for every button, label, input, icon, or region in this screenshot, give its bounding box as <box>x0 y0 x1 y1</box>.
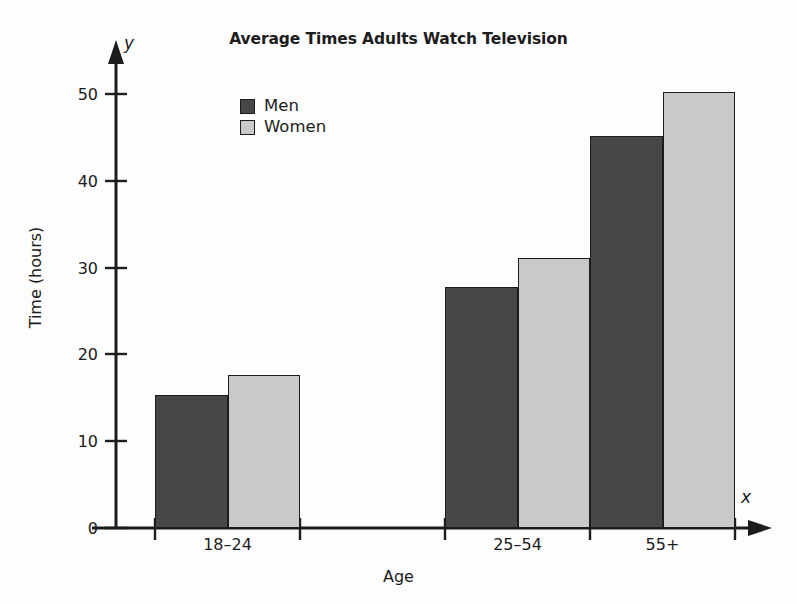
x-tick-label-18-24: 18–24 <box>155 535 300 554</box>
y-tick-label-20: 20 <box>52 345 98 364</box>
y-tick-label-10: 10 <box>52 432 98 451</box>
x-tick-label-25-54: 25–54 <box>445 535 590 554</box>
y-tick-label-0: 0 <box>52 519 98 538</box>
y-tick-label-40: 40 <box>52 172 98 191</box>
chart-legend: Men Women <box>240 96 326 138</box>
bar-women-55 <box>663 92 736 528</box>
bar-women-2554 <box>518 258 591 528</box>
bar-men-55 <box>590 136 663 528</box>
x-tick-label-55plus: 55+ <box>590 535 735 554</box>
legend-label-women: Women <box>264 119 326 136</box>
bar-women-1824 <box>228 375 301 528</box>
y-tick-label-50: 50 <box>52 85 98 104</box>
bar-men-1824 <box>155 395 228 528</box>
legend-swatch-men <box>240 99 255 114</box>
y-axis-title: Time (hours) <box>26 198 45 358</box>
x-axis-title: Age <box>0 567 797 586</box>
x-axis-arrowhead <box>748 520 772 536</box>
y-axis-arrowhead <box>108 40 124 64</box>
legend-item-women: Women <box>240 117 326 138</box>
legend-swatch-women <box>240 120 255 135</box>
chart-page: Average Times Adults Watch Television <box>0 0 797 604</box>
x-axis-variable-label: x <box>741 487 751 507</box>
y-tick-label-30: 30 <box>52 259 98 278</box>
y-axis-variable-label: y <box>124 33 134 53</box>
legend-label-men: Men <box>264 98 299 115</box>
legend-item-men: Men <box>240 96 326 117</box>
bar-men-2554 <box>445 287 518 528</box>
